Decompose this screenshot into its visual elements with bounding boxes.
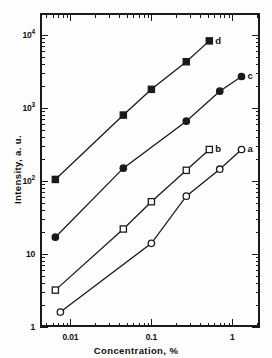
y-tick-label-mantissa: 10 — [23, 176, 32, 186]
data-point-a — [148, 240, 154, 246]
y-tick — [40, 124, 45, 125]
data-point-d — [148, 86, 154, 92]
y-tick-right — [256, 13, 261, 14]
y-tick — [40, 210, 45, 211]
y-tick — [40, 86, 45, 87]
x-tick-top — [224, 13, 225, 18]
data-point-b — [148, 199, 154, 205]
y-tick-label: 10 — [26, 249, 35, 259]
y-tick-right — [256, 119, 261, 120]
x-tick-top — [95, 13, 96, 18]
data-point-b — [183, 167, 189, 173]
y-tick — [40, 115, 45, 116]
y-tick — [40, 219, 45, 220]
y-tick-right — [256, 292, 261, 293]
data-point-c — [217, 88, 223, 94]
y-tick — [40, 197, 45, 198]
x-tick — [95, 323, 96, 328]
x-tick-top — [67, 13, 68, 18]
x-tick-top — [229, 13, 230, 18]
data-point-b — [120, 226, 126, 232]
y-tick-right — [256, 265, 261, 266]
figure: 0.010.11 110102103104 dcba Concentration… — [0, 0, 272, 358]
series-b — [52, 146, 212, 293]
y-tick-right — [252, 254, 260, 255]
y-tick — [40, 119, 45, 120]
y-tick-right — [256, 276, 261, 277]
y-tick-right — [256, 73, 261, 74]
y-tick — [40, 257, 45, 258]
y-tick — [40, 73, 45, 74]
x-tick-top — [63, 13, 64, 18]
y-tick — [40, 188, 45, 189]
series-label-b: b — [215, 143, 221, 154]
y-tick-right — [256, 124, 261, 125]
x-tick — [220, 323, 221, 328]
x-tick — [139, 323, 140, 328]
series-c — [52, 73, 245, 240]
data-point-c — [52, 234, 58, 240]
y-tick — [40, 181, 48, 182]
y-tick-label-exponent: 4 — [32, 28, 35, 35]
y-tick-label-mantissa: 10 — [23, 103, 32, 113]
x-tick-top — [46, 13, 47, 18]
x-tick-top — [139, 13, 140, 18]
y-tick-right — [256, 57, 261, 58]
y-tick — [40, 42, 45, 43]
data-point-a — [183, 193, 189, 199]
y-tick-right — [256, 219, 261, 220]
y-tick — [40, 146, 45, 147]
x-tick — [133, 323, 134, 328]
y-tick — [40, 38, 45, 39]
x-tick-top — [109, 13, 110, 18]
y-tick-right — [256, 270, 261, 271]
x-tick — [67, 323, 68, 328]
x-tick — [224, 323, 225, 328]
series-label-c: c — [248, 70, 253, 81]
y-tick-right — [256, 64, 261, 65]
x-tick-top — [127, 13, 128, 18]
y-tick — [40, 51, 45, 52]
x-tick-top — [119, 13, 120, 18]
series-label-d: d — [215, 34, 221, 45]
x-tick — [208, 323, 209, 328]
data-point-d — [52, 176, 58, 182]
y-tick-right — [252, 327, 260, 328]
y-tick-label: 1 — [30, 322, 35, 332]
y-tick — [40, 35, 48, 36]
y-tick-right — [256, 305, 261, 306]
series-line-a — [60, 150, 241, 313]
y-tick-right — [256, 232, 261, 233]
x-tick-top — [53, 13, 54, 18]
y-axis-title: Intensity, a. u. — [12, 135, 23, 204]
x-tick — [200, 323, 201, 328]
y-tick-label: 102 — [23, 176, 35, 186]
y-tick — [40, 270, 45, 271]
y-tick-right — [256, 203, 261, 204]
x-tick-label: 0.1 — [146, 332, 157, 342]
y-tick-right — [256, 51, 261, 52]
y-tick — [40, 232, 45, 233]
y-tick-label-mantissa: 10 — [23, 30, 32, 40]
y-tick — [40, 46, 45, 47]
x-tick-top — [70, 13, 71, 21]
series-a — [57, 146, 245, 315]
y-tick-right — [256, 46, 261, 47]
x-tick — [190, 323, 191, 328]
y-tick — [40, 254, 48, 255]
x-tick-label: 0.01 — [63, 332, 79, 342]
series-label-a: a — [248, 143, 253, 154]
data-point-d — [206, 38, 212, 44]
x-tick — [109, 323, 110, 328]
data-point-b — [52, 287, 58, 293]
y-tick-right — [256, 283, 261, 284]
data-point-c — [183, 118, 189, 124]
y-tick — [40, 203, 45, 204]
data-point-d — [120, 112, 126, 118]
y-tick-right — [256, 184, 261, 185]
y-tick — [40, 137, 45, 138]
y-tick — [40, 265, 45, 266]
y-tick-right — [256, 130, 261, 131]
y-tick-right — [256, 146, 261, 147]
x-tick — [58, 323, 59, 328]
